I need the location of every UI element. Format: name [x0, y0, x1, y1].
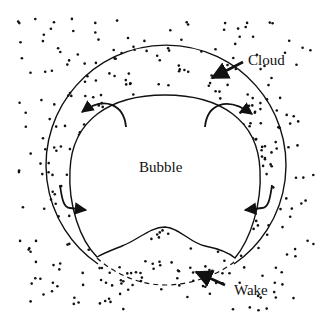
bubble-label: Bubble	[139, 159, 183, 175]
cloud-label: Cloud	[248, 52, 285, 68]
wake-label: Wake	[234, 282, 268, 298]
bubble-interior	[70, 95, 260, 258]
bubble-cloud-diagram: Cloud Wake Bubble	[0, 0, 329, 332]
wake-pointer-arrow	[196, 272, 225, 285]
